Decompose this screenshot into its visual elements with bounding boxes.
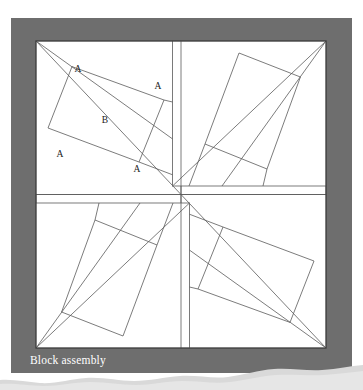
piece-label-a-2: A [155, 81, 162, 91]
block-assembly-figure: A A B A A Block assembly [0, 0, 363, 390]
quadrant-bottom-right [181, 195, 326, 349]
block-assembly-diagram: A A B A A Block assembly [0, 0, 363, 390]
quadrant-top-left [36, 41, 181, 195]
piece-label-b: B [102, 115, 108, 125]
figure-caption: Block assembly [30, 354, 106, 367]
piece-label-a-4: A [134, 164, 141, 174]
piece-label-a-1: A [75, 64, 82, 74]
quadrant-bottom-left [36, 203, 190, 348]
quadrant-top-right [173, 41, 327, 186]
piece-label-a-3: A [57, 149, 64, 159]
